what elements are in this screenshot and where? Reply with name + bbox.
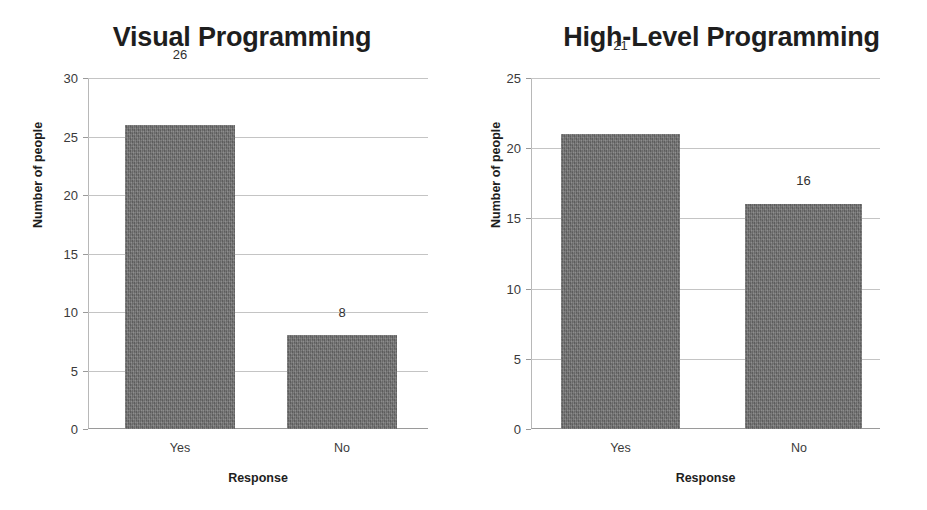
y-axis-title: Number of people [31, 136, 45, 228]
gridline-30 [88, 78, 428, 79]
ytick-mark-0 [526, 429, 531, 430]
bar-yes[interactable] [561, 134, 680, 429]
ytick-label-10: 10 [64, 305, 78, 320]
ytick-label-5: 5 [71, 363, 78, 378]
ytick-mark-0 [83, 429, 88, 430]
ytick-mark-20 [83, 195, 88, 196]
xtick-label-no: No [791, 441, 807, 455]
ytick-label-5: 5 [514, 351, 521, 366]
x-axis-title: Response [228, 471, 288, 485]
ytick-label-25: 25 [507, 71, 521, 86]
ytick-label-10: 10 [507, 281, 521, 296]
ytick-mark-25 [83, 137, 88, 138]
ytick-mark-10 [83, 312, 88, 313]
ytick-mark-5 [83, 371, 88, 372]
ytick-mark-30 [83, 78, 88, 79]
plot-area: 25 20 15 10 5 0 21 16 Yes No Response [531, 78, 880, 429]
bar-no[interactable] [287, 335, 397, 429]
plot-area: 30 25 20 15 10 5 0 26 8 Yes No Response [88, 78, 428, 429]
bar-value-no: 8 [338, 305, 345, 320]
xtick-label-yes: Yes [170, 441, 190, 455]
ytick-mark-25 [526, 78, 531, 79]
x-axis-title: Response [676, 471, 736, 485]
xtick-label-yes: Yes [610, 441, 630, 455]
ytick-label-0: 0 [514, 422, 521, 437]
bar-value-yes: 26 [173, 47, 187, 62]
chart-panel-visual-programming: Visual Programming 30 25 20 15 10 5 0 [0, 0, 464, 510]
chart-title: High-Level Programming [464, 20, 927, 54]
ytick-mark-10 [526, 289, 531, 290]
ytick-label-15: 15 [507, 211, 521, 226]
ytick-mark-5 [526, 359, 531, 360]
bar-value-no: 16 [796, 173, 810, 188]
chart-panel-high-level-programming: High-Level Programming 25 20 15 10 5 0 [464, 0, 927, 510]
ytick-mark-15 [83, 254, 88, 255]
ytick-label-15: 15 [64, 246, 78, 261]
ytick-mark-20 [526, 148, 531, 149]
ytick-label-20: 20 [507, 141, 521, 156]
gridline-25 [531, 78, 880, 79]
xtick-label-no: No [334, 441, 350, 455]
ytick-label-25: 25 [64, 129, 78, 144]
ytick-label-30: 30 [64, 71, 78, 86]
charts-row: Visual Programming 30 25 20 15 10 5 0 [0, 0, 927, 510]
ytick-mark-15 [526, 218, 531, 219]
y-axis-title: Number of people [489, 136, 503, 228]
bar-value-yes: 21 [613, 38, 627, 53]
ytick-label-20: 20 [64, 188, 78, 203]
chart-title: Visual Programming [0, 20, 474, 54]
bar-no[interactable] [745, 204, 862, 429]
bar-yes[interactable] [125, 125, 235, 429]
ytick-label-0: 0 [71, 422, 78, 437]
